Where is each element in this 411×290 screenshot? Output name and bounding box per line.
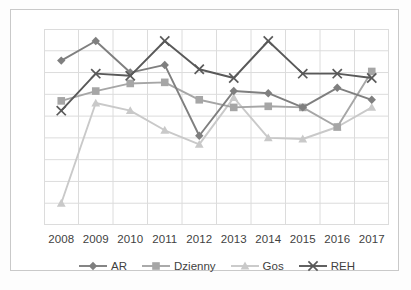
- triangle-marker: [160, 126, 169, 134]
- x-tick-2008: 2008: [44, 229, 79, 249]
- legend-item-gos[interactable]: Gos: [230, 259, 284, 273]
- x-marker: [264, 36, 273, 45]
- x-tick-2015: 2015: [286, 229, 321, 249]
- square-marker: [264, 103, 272, 111]
- square-marker: [126, 80, 134, 88]
- triangle-marker: [367, 103, 376, 111]
- line-chart-canvas: [44, 29, 389, 225]
- triangle-legend-icon: [230, 259, 260, 273]
- chart-legend: ARDziennyGosREH: [44, 256, 389, 276]
- square-marker: [161, 79, 169, 87]
- chart-frame: 2008 2009 2010 2011 2012 2013 2014 2015 …: [10, 9, 399, 271]
- x-tick-2009: 2009: [79, 229, 114, 249]
- square-marker: [57, 97, 65, 105]
- diamond-marker: [89, 262, 97, 270]
- legend-label: REH: [331, 259, 355, 273]
- diamond-marker: [368, 96, 376, 104]
- triangle-marker: [91, 99, 100, 107]
- square-marker: [368, 68, 376, 76]
- x-tick-2011: 2011: [148, 229, 183, 249]
- x-tick-2014: 2014: [251, 229, 286, 249]
- legend-item-reh[interactable]: REH: [298, 259, 355, 273]
- diamond-marker: [57, 56, 65, 64]
- square-marker: [333, 123, 341, 131]
- legend-label: Gos: [263, 259, 284, 273]
- x-tick-2016: 2016: [320, 229, 355, 249]
- legend-label: AR: [111, 259, 127, 273]
- diamond-marker: [264, 89, 272, 97]
- diamond-marker: [333, 84, 341, 92]
- square-legend-icon: [141, 259, 171, 273]
- square-marker: [230, 104, 238, 112]
- plot-area: [44, 29, 389, 225]
- square-marker: [92, 87, 100, 95]
- chart-root: 2008 2009 2010 2011 2012 2013 2014 2015 …: [0, 0, 411, 290]
- x-tick-2010: 2010: [113, 229, 148, 249]
- x-marker: [57, 106, 66, 115]
- x-marker: [160, 36, 169, 45]
- x-tick-2017: 2017: [355, 229, 390, 249]
- x-axis-tick-labels: 2008 2009 2010 2011 2012 2013 2014 2015 …: [44, 229, 389, 249]
- x-tick-2012: 2012: [182, 229, 217, 249]
- square-marker: [195, 96, 203, 104]
- x-legend-icon: [298, 259, 328, 273]
- diamond-legend-icon: [78, 259, 108, 273]
- square-marker: [152, 262, 160, 270]
- legend-item-dzienny[interactable]: Dzienny: [141, 259, 216, 273]
- legend-label: Dzienny: [174, 259, 216, 273]
- diamond-marker: [161, 61, 169, 69]
- x-tick-2013: 2013: [217, 229, 252, 249]
- legend-item-ar[interactable]: AR: [78, 259, 127, 273]
